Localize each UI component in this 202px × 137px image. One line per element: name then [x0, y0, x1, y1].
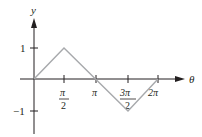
svg-text:π: π	[92, 87, 98, 98]
svg-text:−1: −1	[13, 105, 25, 117]
svg-text:2: 2	[61, 100, 66, 111]
svg-text:1: 1	[20, 42, 26, 54]
svg-text:3π: 3π	[119, 87, 131, 98]
x-tick-pi-over-2: π 2	[59, 75, 69, 111]
x-axis-label: θ	[189, 73, 195, 85]
y-tick-1: 1	[20, 42, 38, 54]
svg-text:π: π	[60, 87, 66, 98]
chart-canvas: y θ 1 −1 π 2 π 3π 2 2π	[0, 0, 202, 137]
x-axis-arrow-icon	[175, 76, 185, 82]
y-axis-arrow-icon	[31, 18, 37, 28]
y-axis-label: y	[30, 4, 36, 16]
x-tick-2pi: 2π	[148, 75, 159, 98]
